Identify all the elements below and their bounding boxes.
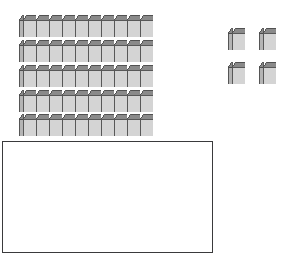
ten-rod[interactable] [19,90,157,112]
unit-cube [19,114,36,136]
unit-cube [19,40,36,62]
unit-cube[interactable] [228,62,245,84]
ten-rod[interactable] [19,40,157,62]
answer-box[interactable] [2,141,213,253]
ten-rod[interactable] [19,114,157,136]
unit-cube[interactable] [259,62,276,84]
unit-cube-face [259,28,276,50]
unit-cube [19,15,36,37]
ten-rod[interactable] [19,65,157,87]
worksheet-canvas [0,0,292,260]
unit-cube[interactable] [259,28,276,50]
unit-cube-face [228,62,245,84]
unit-cube-face [228,28,245,50]
unit-cube[interactable] [228,28,245,50]
unit-cube [19,65,36,87]
ten-rod[interactable] [19,15,157,37]
unit-cube-face [259,62,276,84]
base-ten-blocks-area [0,0,292,141]
unit-cube [19,90,36,112]
answer-box-text[interactable] [3,142,212,151]
